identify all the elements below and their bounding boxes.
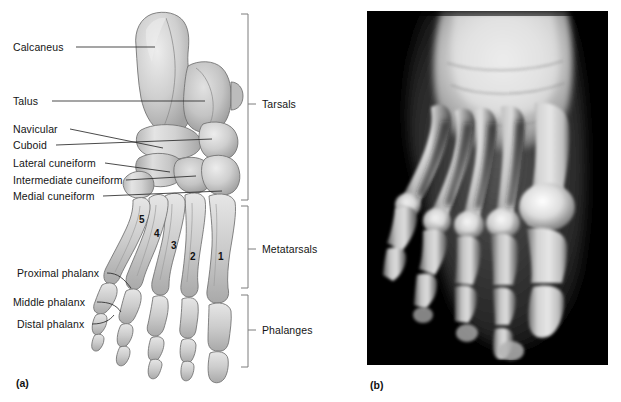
label-calcaneus: Calcaneus <box>13 42 64 53</box>
medial-cuneiform-bone <box>202 155 240 195</box>
metatarsal-number-1: 1 <box>218 252 224 262</box>
bracket-label-tarsals: Tarsals <box>262 99 296 110</box>
foot-xray-image <box>367 11 608 365</box>
bracket-tarsals <box>241 14 248 200</box>
proximal-phalanx-4 <box>119 289 141 324</box>
label-proximal-phalanx: Proximal phalanx <box>17 268 99 279</box>
metatarsal-number-5: 5 <box>139 215 145 225</box>
label-cuboid: Cuboid <box>13 140 47 151</box>
distal-phalanx-4 <box>116 346 130 366</box>
proximal-phalanx-1 <box>208 303 231 351</box>
metatarsal-bones-group <box>104 193 236 303</box>
metatarsal-number-4: 4 <box>154 229 160 239</box>
panel-a-illustration: Calcaneus Talus Navicular Cuboid Lateral… <box>0 0 360 402</box>
label-intermediate-cuneiform: Intermediate cuneiform <box>13 175 123 186</box>
panel-b-radiograph <box>367 11 608 365</box>
talus-side-process <box>231 82 243 110</box>
metatarsal-1 <box>207 194 236 303</box>
bracket-metatarsals <box>241 206 248 288</box>
calcaneus-bone <box>136 12 193 133</box>
distal-phalanx-3 <box>148 359 162 379</box>
label-navicular: Navicular <box>13 124 58 135</box>
middle-phalanx-4 <box>117 324 133 348</box>
middle-phalanx-2 <box>180 339 196 363</box>
tarsal-bones-group <box>123 12 243 198</box>
metatarsal-number-3: 3 <box>171 241 177 251</box>
talus-bone <box>184 62 232 133</box>
label-medial-cuneiform: Medial cuneiform <box>13 191 95 202</box>
caption-panel-a: (a) <box>16 378 29 389</box>
cuboid-bone <box>199 122 238 160</box>
bracket-phalanges <box>241 295 248 367</box>
caption-panel-b: (b) <box>370 380 383 391</box>
group-brackets <box>241 14 256 367</box>
distal-phalanx-5 <box>92 334 104 351</box>
distal-phalanx-1 <box>208 352 228 383</box>
metatarsal-number-2: 2 <box>190 252 196 262</box>
bracket-label-phalanges: Phalanges <box>262 325 313 336</box>
bracket-label-metatarsals: Metatarsals <box>262 244 317 255</box>
proximal-phalanx-3 <box>147 296 168 337</box>
middle-phalanx-3 <box>148 337 164 361</box>
label-lateral-cuneiform: Lateral cuneiform <box>13 158 96 169</box>
label-middle-phalanx: Middle phalanx <box>13 297 85 308</box>
proximal-phalanx-5 <box>94 283 117 314</box>
proximal-phalanx-2 <box>180 298 199 339</box>
figure-foot-bones: Calcaneus Talus Navicular Cuboid Lateral… <box>0 0 621 402</box>
label-talus: Talus <box>13 96 38 107</box>
label-distal-phalanx: Distal phalanx <box>17 319 84 330</box>
distal-phalanx-2 <box>181 361 194 381</box>
